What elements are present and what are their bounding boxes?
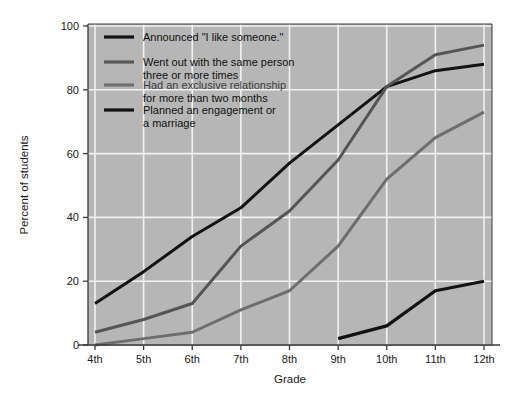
x-tick-label: 7th [233,353,248,365]
x-axis-title: Grade [274,373,306,385]
legend-label-0: Announced "I like someone." [143,31,284,43]
y-tick-label: 80 [67,84,79,96]
line-chart: 020406080100 4th5th6th7th8th9th10th11th1… [0,0,531,403]
y-tick-label: 60 [67,148,79,160]
x-tick-label: 8th [282,353,297,365]
y-tick-label: 40 [67,211,79,223]
y-tick-label: 100 [61,20,79,32]
x-tick-label: 12th [473,353,494,365]
x-tick-label: 4th [87,353,102,365]
x-tick-label: 6th [185,353,200,365]
x-tick-label: 9th [330,353,345,365]
y-axis-title: Percent of students [18,135,30,234]
y-tick-label: 20 [67,275,79,287]
x-tick-label: 5th [136,353,151,365]
legend-label-2: Had an exclusive relationship [143,79,286,91]
y-tick-label: 0 [73,339,79,351]
x-tick-label: 11th [425,353,446,365]
chart-canvas: 020406080100 4th5th6th7th8th9th10th11th1… [0,0,531,403]
x-tick-label: 10th [376,353,397,365]
legend-label-3: Planned an engagement or [143,104,276,116]
legend-label-2-line2: for more than two months [143,92,268,104]
legend-label-1: Went out with the same person [143,56,294,68]
legend-label-3-line2: a marriage [143,117,196,129]
